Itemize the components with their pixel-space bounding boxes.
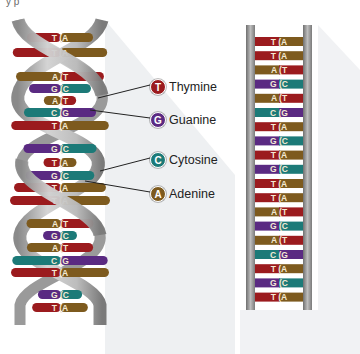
thymine-badge-icon: T bbox=[150, 79, 166, 95]
ladder-rung: T (A bbox=[255, 264, 303, 274]
base-pair-label: G (C bbox=[270, 79, 288, 89]
base-pair-label: A (T bbox=[52, 243, 69, 253]
legend-label: Adenine bbox=[169, 187, 215, 201]
helix-rung: G (C bbox=[43, 231, 77, 241]
base-pair-label: C (G bbox=[51, 256, 69, 266]
helix-rung: T (A bbox=[11, 268, 109, 278]
base-pair-label: A (T bbox=[271, 93, 288, 103]
ladder-rung: G (C bbox=[255, 164, 303, 174]
legend-label: Cytosine bbox=[169, 153, 218, 167]
ladder-left-rail bbox=[246, 25, 255, 310]
base-pair-label: T (A bbox=[271, 37, 288, 47]
base-pair-label: T (A bbox=[271, 264, 288, 274]
base-pair-label: A (T bbox=[271, 235, 288, 245]
base-pair-label: T (A bbox=[271, 51, 288, 61]
ladder-rung: T (A bbox=[255, 51, 303, 61]
ladder-rung: A (T bbox=[255, 93, 303, 103]
base-pair-label: G (C bbox=[51, 84, 69, 94]
ladder-rung: C (G bbox=[255, 108, 303, 118]
ladder-rung: G (C bbox=[255, 221, 303, 231]
helix-rung: A (T bbox=[44, 96, 76, 106]
helix-rung: A (T bbox=[27, 243, 93, 253]
ladder-rung: T (A bbox=[255, 150, 303, 160]
legend-item-thymine: TThymine bbox=[150, 79, 217, 95]
legend-item-cytosine: CCytosine bbox=[150, 152, 218, 168]
base-pair-label: A (T bbox=[52, 219, 69, 229]
base-pair-label: G (C bbox=[51, 171, 69, 181]
base-pair-label: G (C bbox=[270, 278, 288, 288]
ladder-rung: G (C bbox=[255, 278, 303, 288]
ladder-rung: T (A bbox=[255, 122, 303, 132]
helix-rung: T (A bbox=[32, 303, 88, 313]
base-pair-label: G (C bbox=[270, 221, 288, 231]
ladder-rung: T (A bbox=[255, 37, 303, 47]
dna-diagram: y p T (AT (AA (TG (CA (TC (GT (AG (CT bbox=[0, 0, 360, 354]
base-pair-label: C (G bbox=[270, 250, 288, 260]
base-pair-label: T (A bbox=[52, 268, 69, 278]
base-pair-label: G (C bbox=[51, 144, 69, 154]
helix-rung: G (C bbox=[38, 290, 82, 300]
helix-rung: G (C bbox=[29, 84, 91, 94]
base-pair-label: C (G bbox=[51, 108, 69, 118]
base-pair-label: A (T bbox=[52, 96, 69, 106]
base-pair-label: T (A bbox=[271, 150, 288, 160]
ladder-rungs: T (AT (AA (TG (CA (TC (GT (AG (CT (AG (C… bbox=[255, 37, 303, 303]
base-pair-label: G (C bbox=[51, 290, 69, 300]
base-pair-label: A (T bbox=[52, 72, 69, 82]
guanine-badge-icon: G bbox=[150, 112, 166, 128]
ladder-rung: G (C bbox=[255, 79, 303, 89]
legend-label: Guanine bbox=[169, 113, 216, 127]
cropped-caption-fragment: y p bbox=[6, 0, 19, 7]
base-pair-label: A (T bbox=[271, 65, 288, 75]
ladder-rung: A (T bbox=[255, 235, 303, 245]
base-pair-label: G (C bbox=[51, 231, 69, 241]
legend-item-guanine: GGuanine bbox=[150, 112, 216, 128]
base-pair-label: T (A bbox=[52, 158, 69, 168]
base-pair-label: T (A bbox=[271, 179, 288, 189]
ladder-rung: T (A bbox=[255, 193, 303, 203]
base-pair-label: C (G bbox=[270, 108, 288, 118]
adenine-badge-icon: A bbox=[150, 186, 166, 202]
cytosine-badge-icon: C bbox=[150, 152, 166, 168]
base-pair-label: G (C bbox=[270, 136, 288, 146]
base-pair-label: A (T bbox=[271, 207, 288, 217]
ladder-rung: T (A bbox=[255, 179, 303, 189]
dna-illustration: T (AT (AA (TG (CA (TC (GT (AG (CT (AG (C… bbox=[0, 0, 360, 354]
base-pair-label: T (A bbox=[271, 122, 288, 132]
legend-label: Thymine bbox=[169, 80, 217, 94]
legend-item-adenine: AAdenine bbox=[150, 186, 215, 202]
ladder-rung: A (T bbox=[255, 207, 303, 217]
ladder-right-rail bbox=[303, 25, 312, 310]
ladder-rung: T (A bbox=[255, 292, 303, 302]
helix-rung: C (G bbox=[12, 256, 107, 266]
base-pair-label: T (A bbox=[52, 33, 69, 43]
base-pair-label: G (C bbox=[270, 164, 288, 174]
ladder-rung: A (T bbox=[255, 65, 303, 75]
ladder-rung: C (G bbox=[255, 250, 303, 260]
helix-rung: T (A bbox=[44, 158, 77, 168]
ladder-rung: G (C bbox=[255, 136, 303, 146]
base-pair-label: T (A bbox=[52, 303, 69, 313]
base-pair-label: T (A bbox=[271, 193, 288, 203]
base-pair-label: T (A bbox=[271, 292, 288, 302]
